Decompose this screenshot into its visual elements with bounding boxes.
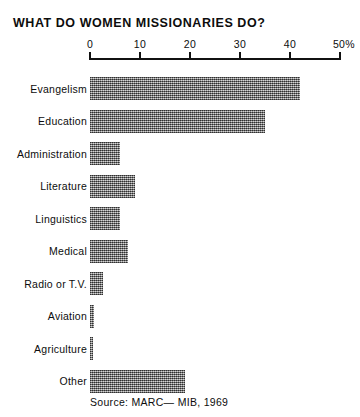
axis-tick-label: 20 [184, 38, 196, 50]
bar [90, 110, 265, 133]
bar [90, 272, 103, 295]
axis-tick-mark [339, 52, 341, 60]
bar-category-label: Linguistics [35, 213, 87, 225]
bar-category-label: Radio or T.V. [24, 278, 87, 290]
bar-row: Education [0, 110, 360, 133]
source-note: Source: MARC— MIB, 1969 [90, 396, 228, 408]
x-axis: 01020304050% [0, 38, 360, 66]
bar [90, 305, 94, 328]
bar-row: Literature [0, 175, 360, 198]
axis-tick-label: 30 [234, 38, 246, 50]
bar-category-label: Literature [40, 180, 87, 192]
axis-tick-mark [189, 52, 191, 60]
bar [90, 142, 120, 165]
bar [90, 175, 135, 198]
bar-row: Administration [0, 142, 360, 165]
bar-category-label: Education [38, 115, 87, 127]
axis-tick-mark [289, 52, 291, 60]
bar [90, 207, 120, 230]
bar [90, 77, 300, 100]
bar-category-label: Aviation [48, 310, 87, 322]
bar-chart: WHAT DO WOMEN MISSIONARIES DO? 010203040… [0, 0, 360, 417]
axis-tick-mark [239, 52, 241, 60]
bar-row: Radio or T.V. [0, 272, 360, 295]
chart-title: WHAT DO WOMEN MISSIONARIES DO? [13, 16, 265, 30]
axis-tick-mark [139, 52, 141, 60]
bar-category-label: Administration [17, 148, 87, 160]
bar-category-label: Other [59, 375, 87, 387]
bar [90, 240, 128, 263]
axis-tick-label: 50% [333, 38, 355, 50]
axis-tick-label: 10 [134, 38, 146, 50]
bar-row: Medical [0, 240, 360, 263]
bar [90, 337, 93, 360]
bar-category-label: Evangelism [30, 83, 87, 95]
bar-row: Linguistics [0, 207, 360, 230]
axis-baseline [90, 58, 340, 60]
bar-row: Aviation [0, 305, 360, 328]
bar-category-label: Agriculture [34, 343, 87, 355]
bar [90, 370, 185, 393]
axis-tick-label: 40 [284, 38, 296, 50]
axis-tick-label: 0 [87, 38, 93, 50]
axis-tick-mark [89, 52, 91, 60]
plot-area: EvangelismEducationAdministrationLiterat… [0, 66, 360, 386]
bar-row: Agriculture [0, 337, 360, 360]
bar-row: Other [0, 370, 360, 393]
bar-category-label: Medical [49, 245, 87, 257]
bar-row: Evangelism [0, 77, 360, 100]
